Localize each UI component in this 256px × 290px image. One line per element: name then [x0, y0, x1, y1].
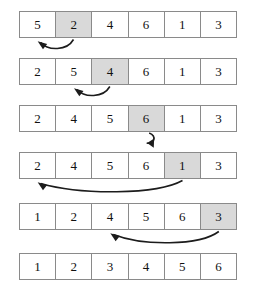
- array-cell: 5: [164, 253, 201, 280]
- array-cell: 2: [19, 152, 56, 179]
- array-cell: 3: [200, 105, 237, 132]
- array-row: 245613: [19, 105, 237, 132]
- array-cell: 4: [91, 11, 128, 38]
- insertion-sort-diagram: 524613254613245613245613124563123456: [0, 0, 256, 290]
- array-cell: 2: [55, 253, 92, 280]
- array-cell: 3: [91, 253, 128, 280]
- array-cell: 5: [55, 58, 92, 85]
- array-cell: 5: [91, 105, 128, 132]
- array-cell: 4: [55, 105, 92, 132]
- array-cell-highlighted: 1: [164, 152, 201, 179]
- array-cell: 5: [128, 203, 165, 230]
- array-cell: 4: [55, 152, 92, 179]
- array-cell: 4: [91, 203, 128, 230]
- array-cell: 6: [128, 152, 165, 179]
- array-cell: 5: [91, 152, 128, 179]
- array-cell: 6: [128, 58, 165, 85]
- move-arrow: [38, 181, 183, 192]
- array-cell: 1: [164, 105, 201, 132]
- array-cell: 4: [128, 253, 165, 280]
- array-cell: 1: [164, 11, 201, 38]
- array-cell-highlighted: 2: [55, 11, 92, 38]
- array-cell: 2: [19, 105, 56, 132]
- array-cell-highlighted: 6: [128, 105, 165, 132]
- array-cell: 6: [128, 11, 165, 38]
- array-cell-highlighted: 4: [91, 58, 128, 85]
- move-arrow: [38, 40, 74, 50]
- array-cell: 6: [200, 253, 237, 280]
- array-cell: 1: [19, 203, 56, 230]
- array-cell: 1: [19, 253, 56, 280]
- array-cell: 2: [19, 58, 56, 85]
- array-row: 524613: [19, 11, 237, 38]
- array-cell: 5: [19, 11, 56, 38]
- array-cell: 3: [200, 58, 237, 85]
- move-arrow: [147, 133, 155, 148]
- array-cell-highlighted: 3: [200, 203, 237, 230]
- array-row: 123456: [19, 253, 237, 280]
- array-cell: 6: [164, 203, 201, 230]
- array-row: 124563: [19, 203, 237, 230]
- array-row: 245613: [19, 152, 237, 179]
- array-cell: 2: [55, 203, 92, 230]
- arrows-layer: [0, 0, 256, 290]
- array-cell: 1: [164, 58, 201, 85]
- array-cell: 3: [200, 152, 237, 179]
- array-row: 254613: [19, 58, 237, 85]
- array-cell: 3: [200, 11, 237, 38]
- move-arrow: [110, 232, 218, 243]
- move-arrow: [74, 87, 110, 97]
